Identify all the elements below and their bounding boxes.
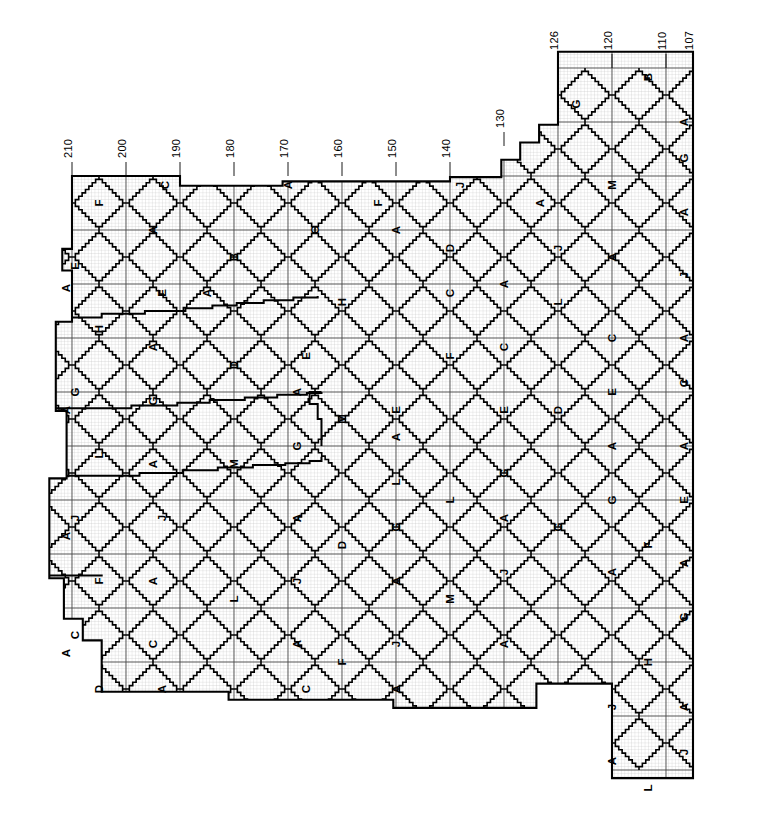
region-label: A [678,118,690,126]
region-label: F [93,577,105,584]
region-label: D [552,406,564,414]
region-label: E [390,406,402,414]
region-label: A [678,442,690,450]
region-label: A [678,208,690,216]
region-label: A [606,442,618,450]
region-label: A [291,514,303,522]
region-label: E [606,388,618,396]
region-label: J [552,245,564,251]
region-label: A [60,649,72,657]
region-label: L [642,784,654,791]
region-label: A [147,577,159,585]
region-label: G [570,99,582,108]
region-label: H [93,325,105,333]
axis-tick-label: 170 [278,139,290,158]
region-label: A [60,406,72,414]
region-label: A [282,181,294,189]
region-label: G [678,153,690,162]
axis-tick-label: 160 [332,139,344,158]
region-label: F [444,352,456,359]
region-label: A [390,226,402,234]
axis-tick-label: 180 [224,139,236,158]
region-label: D [93,685,105,693]
axis-tick-label: 140 [440,139,452,158]
region-label: A [147,343,159,351]
region-label: J [454,182,466,188]
region-label: A [60,284,72,292]
region-label: C [606,334,618,342]
region-label: M [228,459,240,469]
region-label: C [444,289,456,297]
region-label: L [552,298,564,305]
region-label: A [147,226,159,234]
region-label: G [678,612,690,621]
axis-tick-label: 190 [170,139,182,158]
region-label: L [390,478,402,485]
region-label: C [678,379,690,387]
region-label: M [336,414,348,424]
region-label: A [291,388,303,396]
survey-map-canvas: 210200190180170160150140130126120110107 … [0,0,759,839]
region-label: A [498,280,510,288]
region-label: A [156,685,168,693]
region-label: A [390,433,402,441]
region-label: D [336,541,348,549]
region-label: J [69,515,81,521]
region-label: A [678,334,690,342]
region-label: C [69,631,81,639]
axis-tick-label: 130 [494,109,506,128]
region-label: J [678,749,690,755]
region-label: C [159,181,171,189]
region-label: G [552,522,564,531]
region-label: L [444,496,456,503]
region-label: A [291,640,303,648]
region-label: L [228,595,240,602]
region-label: M [606,180,618,190]
region-label: A [678,559,690,567]
region-label: F [372,199,384,206]
region-label: E [498,406,510,414]
region-label: G [291,441,303,450]
axis-tick-label: 126 [548,31,560,50]
region-label: J [606,704,618,710]
region-label: A [390,685,402,693]
region-label: A [678,703,690,711]
region-label: C [147,640,159,648]
region-label: G [69,387,81,396]
region-label: A [606,253,618,261]
region-label: B [642,73,654,81]
region-label: J [291,578,303,584]
region-label: E [300,352,312,360]
region-label: D [228,361,240,369]
region-label: A [147,460,159,468]
survey-map-figure: 210200190180170160150140130126120110107 … [0,0,759,839]
region-label: E [678,496,690,504]
region-label: G [147,396,159,405]
survey-correction-line [49,575,101,576]
region-label: C [309,226,321,234]
region-label: G [390,522,402,531]
region-label: J [678,272,690,278]
axis-tick-label: 150 [386,139,398,158]
region-label: M [444,594,456,604]
region-label: A [606,757,618,765]
region-label: C [498,343,510,351]
region-label: J [498,569,510,575]
region-label: G [498,468,510,477]
region-label: A [606,568,618,576]
region-label: E [69,262,81,270]
region-label: J [156,515,168,521]
region-label: L [93,451,105,458]
region-label: J [390,641,402,647]
axis-tick-label: 110 [656,32,668,50]
region-label: A [60,532,72,540]
region-label: H [642,658,654,666]
axis-tick-label: 107 [683,31,695,50]
region-label: G [606,495,618,504]
region-label: F [336,658,348,665]
region-label: A [498,514,510,522]
axis-tick-label: 120 [602,31,614,50]
region-label: H [336,298,348,306]
axis-tick-label: 200 [116,139,128,158]
axis-tick-label: 210 [62,139,74,158]
